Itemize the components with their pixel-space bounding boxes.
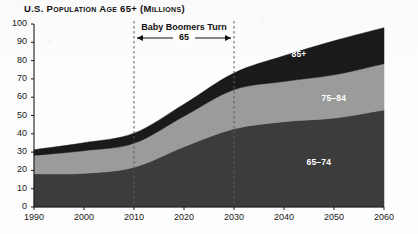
annotation-subtitle: 65 bbox=[164, 32, 204, 42]
y-tick-label: 30 bbox=[5, 146, 27, 156]
y-tick-label: 10 bbox=[5, 183, 27, 193]
arrowhead-left-icon bbox=[137, 35, 143, 41]
y-tick-label: 20 bbox=[5, 164, 27, 174]
y-tick-label: 70 bbox=[5, 73, 27, 83]
x-tick-label: 2060 bbox=[364, 212, 404, 222]
x-tick-label: 2000 bbox=[64, 212, 104, 222]
x-tick-label: 2020 bbox=[164, 212, 204, 222]
band-label: 75–84 bbox=[322, 93, 347, 103]
y-tick-label: 60 bbox=[5, 91, 27, 101]
band-label: 85+ bbox=[292, 49, 307, 59]
stacked-area-plot bbox=[0, 0, 418, 234]
y-tick-label: 100 bbox=[5, 18, 27, 28]
area-series-group bbox=[34, 28, 384, 207]
y-tick-label: 40 bbox=[5, 128, 27, 138]
y-tick-label: 80 bbox=[5, 55, 27, 65]
arrowhead-right-icon bbox=[225, 35, 231, 41]
y-tick-label: 0 bbox=[5, 201, 27, 211]
chart-figure: U.S. Population Age 65+ (Millions) 01020… bbox=[0, 0, 418, 234]
x-tick-label: 2010 bbox=[114, 212, 154, 222]
x-tick-label: 1990 bbox=[14, 212, 54, 222]
x-tick-label: 2040 bbox=[264, 212, 304, 222]
x-tick-label: 2030 bbox=[214, 212, 254, 222]
annotation-title: Baby Boomers Turn bbox=[124, 22, 244, 32]
band-label: 65–74 bbox=[307, 157, 332, 167]
x-tick-label: 2050 bbox=[314, 212, 354, 222]
y-tick-label: 90 bbox=[5, 36, 27, 46]
y-tick-label: 50 bbox=[5, 110, 27, 120]
